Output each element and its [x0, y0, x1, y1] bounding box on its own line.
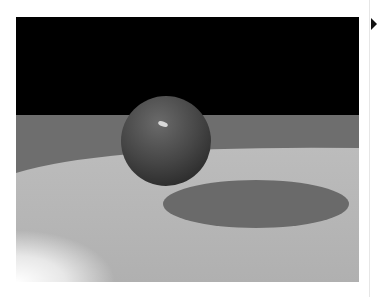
page-edge-divider — [369, 0, 370, 297]
scene-render — [16, 17, 359, 282]
rendered-figure — [16, 17, 359, 282]
triangle-right-icon — [371, 18, 377, 30]
sky — [16, 17, 359, 115]
sphere — [121, 96, 211, 186]
